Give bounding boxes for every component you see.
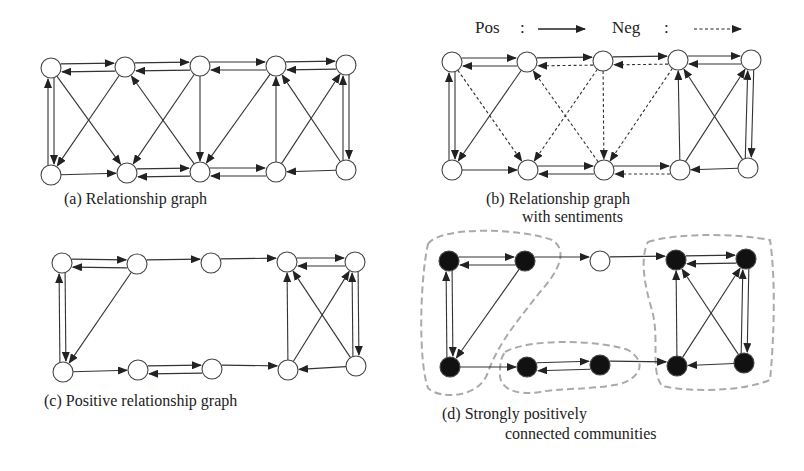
graph-node	[202, 359, 222, 379]
positive-edge	[610, 361, 666, 362]
graph-node	[266, 162, 286, 182]
graph-node	[128, 360, 148, 380]
graph-node	[277, 252, 297, 272]
graph-node	[734, 353, 754, 373]
graph-node	[346, 356, 366, 376]
positive-edge	[69, 272, 131, 363]
graph-node	[594, 160, 614, 180]
positive-edge	[352, 273, 353, 356]
positive-edge	[537, 57, 592, 58]
graph-node	[442, 160, 462, 180]
positive-edge	[686, 255, 735, 256]
graph-node	[518, 160, 538, 180]
graph-node	[590, 355, 610, 375]
legend-neg-label: Neg	[612, 18, 640, 38]
graph-node	[738, 158, 758, 178]
positive-edge	[358, 272, 359, 355]
graph-node	[336, 160, 356, 180]
caption-d-line2: connected communities	[505, 425, 657, 443]
positive-edge	[65, 273, 66, 361]
positive-edge	[148, 365, 201, 366]
graph-node	[666, 250, 686, 270]
graph-node	[53, 362, 73, 382]
positive-edge	[221, 258, 276, 259]
positive-edge	[537, 361, 589, 362]
positive-edge	[452, 271, 453, 356]
graph-node	[515, 251, 535, 271]
graph-node	[52, 253, 72, 273]
positive-edge	[287, 170, 336, 171]
positive-edge	[149, 373, 202, 374]
positive-edge	[72, 259, 126, 260]
graph-node	[741, 50, 761, 70]
legend-pos-label: Pos	[475, 18, 500, 38]
positive-edge	[685, 69, 745, 161]
positive-edge	[287, 273, 288, 360]
graph-node	[668, 50, 688, 70]
positive-edge	[138, 176, 190, 177]
graph-node	[593, 51, 613, 71]
positive-edge	[610, 256, 665, 257]
positive-edge	[678, 71, 680, 160]
positive-edge	[287, 69, 336, 70]
graph-node	[278, 360, 298, 380]
graph-node	[590, 251, 610, 271]
positive-edge	[59, 274, 60, 362]
graph-node	[439, 251, 459, 271]
graph-node	[190, 56, 210, 76]
graph-node	[336, 55, 356, 75]
positive-edge	[222, 365, 277, 366]
caption-b-line2: with sentiments	[522, 208, 623, 226]
graph-node	[41, 58, 61, 78]
figure: Pos : Neg : (a) Relationship graph (b) R…	[0, 0, 804, 471]
negative-edge	[614, 64, 668, 65]
graph-node	[667, 356, 687, 376]
positive-edge	[456, 269, 519, 358]
caption-b-line1: (b) Relationship graph	[486, 190, 630, 208]
graph-node	[345, 252, 365, 272]
negative-edge	[603, 71, 604, 159]
negative-edge	[136, 70, 190, 71]
positive-edge	[61, 63, 114, 64]
positive-edge	[745, 71, 747, 158]
positive-edge	[446, 272, 447, 357]
graph-node	[41, 165, 61, 185]
positive-edge	[676, 271, 677, 356]
graph-node	[266, 56, 286, 76]
positive-edge	[538, 369, 590, 370]
negative-edge	[538, 65, 593, 66]
positive-edge	[286, 61, 335, 62]
positive-edge	[137, 168, 189, 169]
negative-edge	[610, 68, 672, 161]
positive-edge	[747, 269, 749, 352]
graph-node	[190, 162, 210, 182]
graph-node	[440, 357, 460, 377]
positive-edge	[741, 270, 743, 353]
graph-node	[736, 249, 756, 269]
positive-edge	[691, 168, 738, 169]
graph-node	[115, 57, 135, 77]
positive-edge	[688, 363, 734, 365]
caption-c: (c) Positive relationship graph	[44, 392, 237, 410]
positive-edge	[73, 370, 127, 371]
positive-edge	[61, 173, 116, 174]
positive-edge	[684, 69, 743, 159]
graph-node	[117, 163, 137, 183]
caption-d-line1: (d) Strongly positively	[442, 405, 587, 423]
positive-edge	[135, 62, 189, 63]
graph-node	[670, 160, 690, 180]
legend-neg-separator: :	[664, 18, 669, 38]
edges-layer	[48, 56, 754, 374]
graph-node	[517, 357, 537, 377]
positive-edge	[299, 367, 346, 370]
positive-edge	[687, 263, 736, 264]
positive-edge	[73, 267, 127, 268]
positive-edge	[613, 56, 667, 57]
graph-node	[127, 254, 147, 274]
positive-edge	[751, 70, 753, 157]
positive-edge	[147, 259, 200, 260]
graph-node	[517, 52, 537, 72]
positive-edge	[62, 71, 115, 72]
positive-edge	[682, 269, 738, 354]
legend-pos-separator: :	[520, 18, 525, 38]
